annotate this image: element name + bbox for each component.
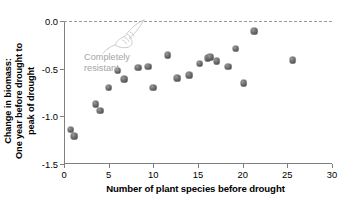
y-tick-label: -0.5 (42, 63, 58, 74)
y-tick-label: 0.0 (45, 16, 58, 27)
y-tick (60, 21, 64, 22)
x-tick (64, 164, 65, 168)
y-axis-title-line-2: One year before drought to (14, 43, 25, 159)
y-axis-title-line-3: peak of drought (26, 43, 37, 159)
x-tick (332, 164, 333, 168)
plot-area: 0.0-0.5-1.0-1.5 051015202530 (64, 21, 332, 164)
data-point (92, 101, 99, 108)
data-point (207, 54, 214, 61)
x-tick (109, 164, 110, 168)
data-point (135, 64, 142, 71)
data-point (67, 126, 74, 133)
data-point (196, 61, 203, 68)
data-point (114, 67, 121, 74)
data-point (251, 28, 258, 35)
x-tick (153, 164, 154, 168)
y-tick (60, 116, 64, 117)
x-tick-label: 30 (327, 169, 337, 180)
zero-reference-line (64, 21, 332, 22)
y-tick (60, 69, 64, 70)
x-tick-label: 10 (148, 169, 158, 180)
x-tick-label: 5 (106, 169, 111, 180)
x-axis-title: Number of plant species before drought (48, 183, 343, 194)
data-point (240, 80, 247, 87)
data-point (232, 45, 239, 52)
data-point (289, 57, 296, 64)
data-point (97, 107, 104, 114)
x-tick (243, 164, 244, 168)
x-tick (198, 164, 199, 168)
data-point (225, 63, 232, 70)
x-tick-label: 20 (237, 169, 247, 180)
scatter-chart-figure: Change in biomass: One year before droug… (0, 0, 343, 202)
data-point (121, 76, 128, 83)
y-axis-title: Change in biomass: One year before droug… (0, 0, 40, 202)
data-point (71, 133, 78, 140)
data-point (105, 84, 112, 91)
x-tick-label: 15 (193, 169, 203, 180)
data-point (213, 58, 220, 65)
y-tick-label: -1.5 (42, 159, 58, 170)
data-point (164, 52, 171, 59)
x-tick-label: 25 (282, 169, 292, 180)
data-point (186, 72, 193, 79)
y-axis-line (64, 21, 65, 164)
data-point (150, 84, 157, 91)
x-tick (287, 164, 288, 168)
data-point (145, 63, 152, 70)
y-tick-label: -1.0 (42, 111, 58, 122)
x-tick-label: 0 (61, 169, 66, 180)
data-point (174, 75, 181, 82)
y-axis-title-line-1: Change in biomass: (3, 43, 14, 159)
